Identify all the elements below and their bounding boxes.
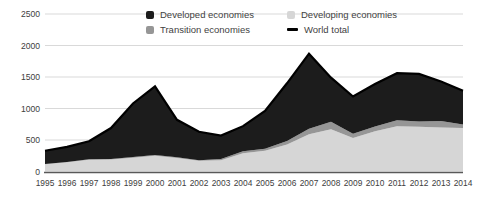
legend-swatch-transition-economies xyxy=(146,26,154,34)
legend-item-developing-economies: Developing economies xyxy=(287,9,397,20)
legend-item-world-total: World total xyxy=(287,24,397,35)
x-axis-tick-label: 2013 xyxy=(432,178,451,188)
x-axis-tick-label: 2012 xyxy=(410,178,429,188)
legend-label: World total xyxy=(304,24,349,35)
legend-label: Transition economies xyxy=(160,24,250,35)
x-axis-tick-label: 2004 xyxy=(234,178,253,188)
x-axis-tick-label: 2009 xyxy=(344,178,363,188)
chart-container: 0500100015002000250019951996199719981999… xyxy=(0,0,478,198)
x-axis-tick-label: 2005 xyxy=(256,178,275,188)
x-axis-tick-label: 1995 xyxy=(36,178,55,188)
x-axis-tick-label: 1996 xyxy=(58,178,77,188)
x-axis-tick-label: 2010 xyxy=(366,178,385,188)
x-axis-tick-label: 2011 xyxy=(388,178,406,188)
legend-line-swatch-world-total xyxy=(287,28,298,31)
x-axis-tick-label: 2007 xyxy=(300,178,319,188)
x-axis-tick-label: 2014 xyxy=(454,178,473,188)
y-axis-tick-label: 1000 xyxy=(21,104,40,114)
x-axis-tick-label: 2001 xyxy=(168,178,187,188)
legend-swatch-developed-economies xyxy=(146,11,154,19)
x-axis-tick-label: 1997 xyxy=(80,178,99,188)
legend-label: Developed economies xyxy=(160,9,254,20)
x-axis-tick-label: 2003 xyxy=(212,178,231,188)
legend-item-developed-economies: Developed economies xyxy=(146,9,287,20)
legend-label: Developing economies xyxy=(301,9,397,20)
y-axis-tick-label: 1500 xyxy=(21,72,40,82)
y-axis-tick-label: 2500 xyxy=(21,9,40,19)
y-axis-tick-label: 2000 xyxy=(21,41,40,51)
chart-legend: Developed economiesDeveloping economiesT… xyxy=(146,9,397,35)
x-axis-tick-label: 2002 xyxy=(190,178,209,188)
x-axis-tick-label: 1998 xyxy=(102,178,121,188)
x-axis-tick-label: 2008 xyxy=(322,178,341,188)
y-axis-tick-label: 500 xyxy=(26,135,41,145)
x-axis-tick-label: 1999 xyxy=(124,178,143,188)
x-axis-tick-label: 2006 xyxy=(278,178,297,188)
y-axis-tick-label: 0 xyxy=(35,167,40,177)
legend-swatch-developing-economies xyxy=(287,11,295,19)
x-axis-tick-label: 2000 xyxy=(146,178,165,188)
legend-item-transition-economies: Transition economies xyxy=(146,24,287,35)
